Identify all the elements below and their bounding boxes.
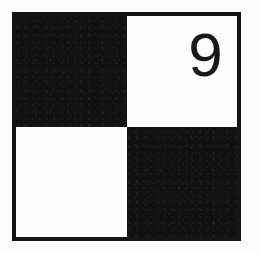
quadrant-bottom-left [16,127,127,237]
image-canvas: 9 [0,0,259,253]
checkerboard-tile: 9 [12,12,241,241]
quadrant-bottom-right [127,127,237,237]
quadrant-number-label: 9 [188,24,222,86]
quadrant-top-right: 9 [127,16,237,127]
quadrant-top-left [16,16,127,127]
